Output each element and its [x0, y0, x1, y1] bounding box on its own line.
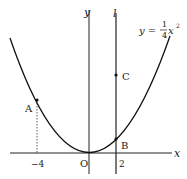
origin-label: O	[80, 158, 88, 169]
tick-neg4: −4	[31, 159, 45, 169]
point-c-label: C	[122, 71, 130, 82]
equation-lhs: y =	[138, 25, 156, 36]
point-b	[114, 137, 117, 140]
point-c	[114, 73, 117, 76]
equation-numerator: 1	[162, 20, 167, 29]
parabola-diagram: y x O l −4 2 A B C y = 1 4 x 2	[0, 0, 187, 179]
parabola-curve	[10, 36, 170, 153]
point-a-label: A	[24, 103, 33, 114]
equation-exponent: 2	[176, 22, 180, 29]
line-l-label: l	[113, 7, 117, 20]
point-b-label: B	[121, 140, 128, 151]
tick-2: 2	[119, 159, 125, 169]
x-axis-label: x	[174, 147, 181, 160]
point-a	[35, 98, 38, 101]
equation-denominator: 4	[162, 31, 167, 40]
equation-var: x	[168, 25, 174, 36]
curve-equation: y = 1 4 x 2	[138, 20, 180, 40]
y-axis-label: y	[83, 6, 91, 19]
